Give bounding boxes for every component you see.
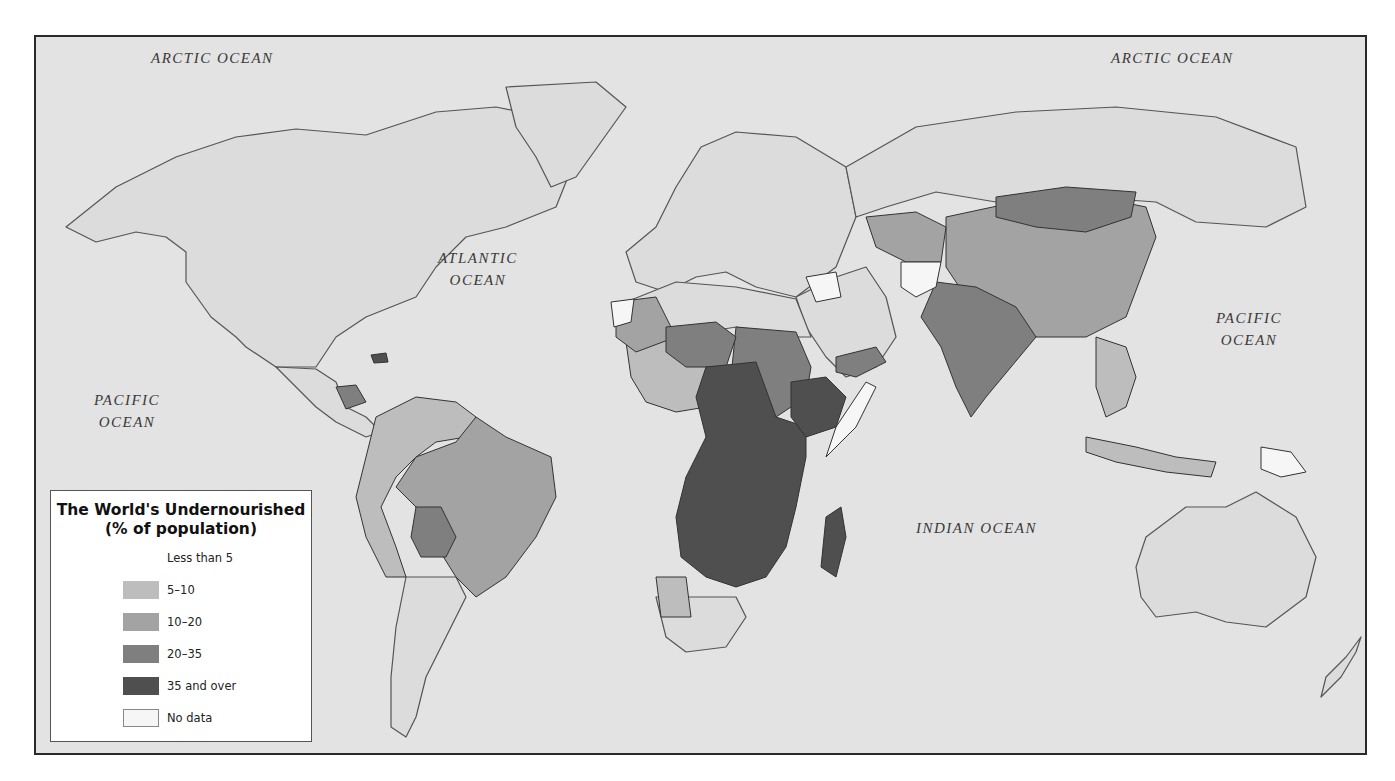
legend-label: Less than 5 xyxy=(167,551,233,565)
legend-label: 10–20 xyxy=(167,615,202,629)
legend-item-5-10: 5–10 xyxy=(123,581,195,599)
legend-item-35-and-over: 35 and over xyxy=(123,677,236,695)
legend-swatch xyxy=(123,645,159,663)
legend-label: 5–10 xyxy=(167,583,195,597)
legend-swatch xyxy=(123,613,159,631)
arctic-ocean-label-west: ARCTIC OCEAN xyxy=(151,47,274,69)
legend-label: No data xyxy=(167,711,212,725)
legend-swatch xyxy=(123,581,159,599)
atlantic-ocean-label: ATLANTICOCEAN xyxy=(438,247,518,291)
legend-item-no-data: No data xyxy=(123,709,212,727)
region-haiti xyxy=(371,353,388,363)
legend-swatch xyxy=(123,677,159,695)
legend-swatch xyxy=(123,549,159,567)
indian-ocean-label: INDIAN OCEAN xyxy=(916,517,1037,539)
legend-label: 20–35 xyxy=(167,647,202,661)
legend-title: The World's Undernourished (% of populat… xyxy=(51,501,311,539)
legend-swatch xyxy=(123,709,159,727)
region-niger xyxy=(666,322,736,367)
legend-item-less-than-5: Less than 5 xyxy=(123,549,233,567)
legend-item-20-35: 20–35 xyxy=(123,645,202,663)
pacific-ocean-label-east: PACIFICOCEAN xyxy=(1216,307,1282,351)
map-legend: The World's Undernourished (% of populat… xyxy=(50,490,312,742)
legend-label: 35 and over xyxy=(167,679,236,693)
region-namibia xyxy=(656,577,691,617)
legend-item-10-20: 10–20 xyxy=(123,613,202,631)
pacific-ocean-label-west: PACIFICOCEAN xyxy=(94,389,160,433)
world-map: ARCTIC OCEAN ARCTIC OCEAN ATLANTICOCEAN … xyxy=(34,35,1367,755)
arctic-ocean-label-east: ARCTIC OCEAN xyxy=(1111,47,1234,69)
